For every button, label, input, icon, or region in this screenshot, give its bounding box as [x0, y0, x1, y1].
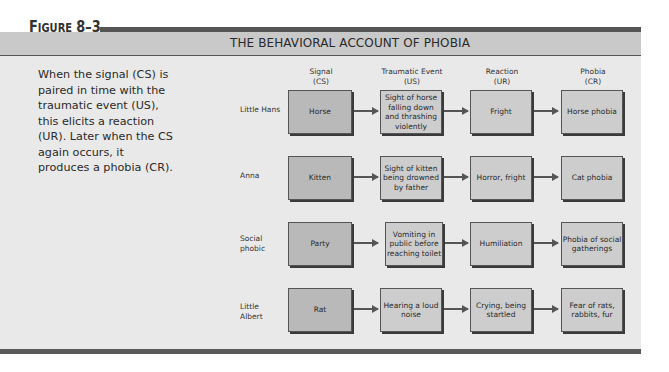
column-header-line: Signal: [271, 67, 371, 77]
phobia-box: Horse phobia: [561, 90, 623, 134]
signal-box: Horse: [288, 90, 352, 134]
column-header-signal: Signal(CS): [271, 67, 371, 87]
figure-title: THE BEHAVIORAL ACCOUNT OF PHOBIA: [230, 36, 470, 50]
column-header-line: (CS): [271, 77, 371, 87]
phobia-box: Fear of rats, rabbits, fur: [561, 288, 623, 332]
bottom-rule: [0, 349, 641, 354]
column-header-line: Phobia: [543, 67, 643, 77]
reaction-box: Horror, fright: [470, 156, 532, 200]
signal-box: Rat: [288, 288, 352, 332]
event-box: Hearing a loud noise: [380, 288, 442, 332]
arrow-icon: [354, 308, 378, 310]
reaction-box: Crying, being startled: [470, 288, 532, 332]
column-header-line: (CR): [543, 77, 643, 87]
arrow-icon: [354, 242, 378, 244]
row-label: Anna: [240, 171, 259, 181]
event-box: Sight of kitten being drowned by father: [380, 156, 442, 200]
column-header-reaction: Reaction(UR): [452, 67, 552, 87]
column-header-phobia: Phobia(CR): [543, 67, 643, 87]
column-header-traumatic-event: Traumatic Event(US): [362, 67, 462, 87]
arrow-icon: [534, 242, 558, 244]
signal-box: Kitten: [288, 156, 352, 200]
column-header-line: (US): [362, 77, 462, 87]
row-label: Little Albert: [240, 302, 280, 322]
event-box: Sight of horse falling down and thrashin…: [380, 90, 442, 134]
arrow-icon: [534, 110, 558, 112]
reaction-box: Fright: [470, 90, 532, 134]
arrow-icon: [445, 242, 468, 244]
arrow-icon: [444, 176, 468, 178]
phobia-box: Cat phobia: [561, 156, 623, 200]
arrow-icon: [534, 176, 558, 178]
arrow-icon: [444, 308, 468, 310]
arrow-icon: [354, 110, 378, 112]
event-box: Vomiting in public before reaching toile…: [385, 222, 443, 266]
column-header-line: (UR): [452, 77, 552, 87]
column-header-line: Reaction: [452, 67, 552, 77]
arrow-icon: [534, 308, 558, 310]
reaction-box: Humiliation: [470, 222, 532, 266]
row-label: Little Hans: [240, 105, 280, 115]
column-header-line: Traumatic Event: [362, 67, 462, 77]
phobia-box: Phobia of social gatherings: [561, 222, 623, 266]
signal-box: Party: [288, 222, 352, 266]
arrow-icon: [444, 110, 468, 112]
row-label: Social phobic: [240, 234, 280, 254]
caption-text: When the signal (CS) is paired in time w…: [38, 67, 178, 176]
arrow-icon: [354, 176, 378, 178]
